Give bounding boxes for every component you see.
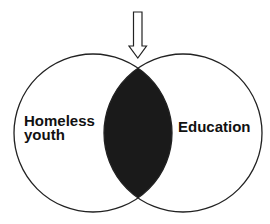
homeless-youth-label: Homeless youth [24,114,95,142]
education-label: Education [178,120,251,134]
homeless-label-line2: youth [24,128,95,142]
down-arrow-icon [129,12,147,58]
